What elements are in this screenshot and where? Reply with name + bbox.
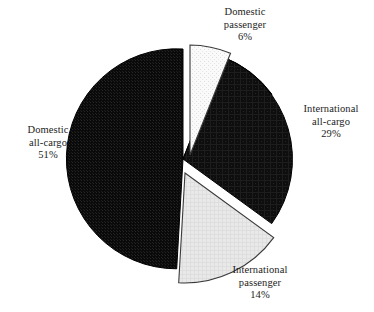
pie-label-international-passenger: International passenger 14% <box>198 264 322 302</box>
pie-label-domestic-all-cargo-line1: Domestic <box>2 124 94 137</box>
pie-label-domestic-all-cargo-line2: all-cargo <box>2 137 94 150</box>
pie-label-international-all-cargo-percent: 29% <box>288 128 374 141</box>
pie-label-international-passenger-percent: 14% <box>198 289 322 302</box>
pie-label-international-all-cargo-line2: all-cargo <box>288 116 374 129</box>
pie-label-international-all-cargo-line1: International <box>288 103 374 116</box>
pie-chart: Domestic passenger 6% International all-… <box>0 0 374 312</box>
pie-label-domestic-all-cargo: Domestic all-cargo 51% <box>2 124 94 162</box>
pie-label-domestic-passenger-percent: 6% <box>190 31 300 44</box>
pie-label-international-passenger-line2: passenger <box>198 277 322 290</box>
pie-label-international-all-cargo: International all-cargo 29% <box>288 103 374 141</box>
pie-label-domestic-passenger-line1: Domestic <box>190 6 300 19</box>
pie-label-domestic-passenger: Domestic passenger 6% <box>190 6 300 44</box>
pie-label-domestic-passenger-line2: passenger <box>190 19 300 32</box>
pie-label-international-passenger-line1: International <box>198 264 322 277</box>
pie-label-domestic-all-cargo-percent: 51% <box>2 149 94 162</box>
